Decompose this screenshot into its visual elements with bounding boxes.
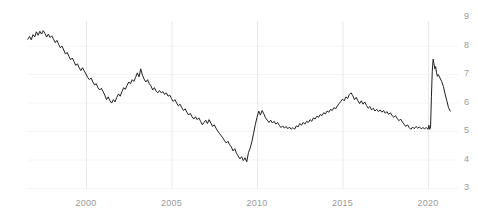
y-tick-label-4: 4 <box>464 155 469 164</box>
x-tick-label-2000: 2000 <box>71 199 101 208</box>
y-tick-label-5: 5 <box>464 126 469 135</box>
y-tick-label-3: 3 <box>464 183 469 192</box>
chart-plot-area <box>0 0 478 218</box>
x-tick-label-2020: 2020 <box>413 199 443 208</box>
y-tick-label-8: 8 <box>464 41 469 50</box>
x-tick-label-2005: 2005 <box>157 199 187 208</box>
y-tick-label-6: 6 <box>464 98 469 107</box>
data-line-series-1 <box>28 31 450 162</box>
x-tick-label-2010: 2010 <box>242 199 272 208</box>
line-chart: 9876543 20002005201020152020 <box>0 0 478 218</box>
y-tick-label-9: 9 <box>464 12 469 21</box>
y-tick-label-7: 7 <box>464 69 469 78</box>
x-tick-label-2015: 2015 <box>328 199 358 208</box>
